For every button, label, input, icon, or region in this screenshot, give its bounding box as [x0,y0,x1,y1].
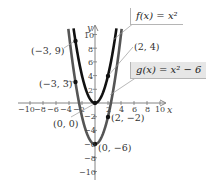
point-label: (−3, 9) [31,46,65,56]
y-tick-label: −4 [84,127,96,135]
y-tick-label: 10 [84,32,94,40]
point-label: (2, 4) [134,42,160,52]
point-label: (−3, 3) [39,79,73,89]
x-tick-label: −6 [47,106,59,114]
x-tick-label: 10 [155,106,165,114]
point-neg3-3 [73,80,77,84]
point-2-4 [106,74,110,78]
y-tick-label: −6 [84,141,96,149]
x-axis-label: x [167,105,172,115]
x-tick-label: 8 [145,106,150,114]
point-0-0 [93,101,97,105]
legend-g: g(x) = x² − 6 [130,62,206,79]
point-label: (2, −2) [111,113,145,123]
point-label: (0, −6) [98,143,132,153]
point-2-neg2 [106,115,110,119]
legend-f: f(x) = x² [130,8,183,25]
plot-area [0,0,214,183]
y-tick-label: −8 [84,155,96,163]
point-label: (0, 0) [53,119,79,129]
y-tick-label: 2 [88,87,93,95]
x-tick-label: −10 [18,106,35,114]
x-tick-label: −4 [60,106,72,114]
y-tick-label: 8 [88,46,93,54]
y-tick-label: −2 [84,113,96,121]
x-tick-label: −8 [34,106,46,114]
y-tick-label: −10 [79,169,96,177]
y-tick-label: 4 [88,73,93,81]
point-neg3-9 [73,39,77,43]
y-tick-label: 6 [88,59,93,67]
